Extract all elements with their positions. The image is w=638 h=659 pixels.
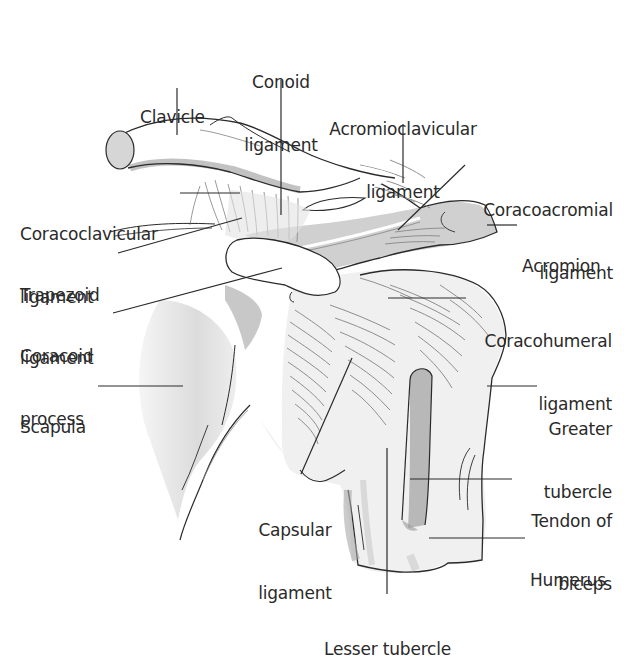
label-text: Scapula (20, 417, 86, 438)
label-text: ligament (231, 135, 331, 156)
label-scapula: Scapula (20, 375, 86, 459)
label-text: Humerus (530, 570, 606, 591)
label-text: Greater (520, 419, 612, 440)
label-acromion: Acromion (522, 214, 601, 298)
label-text: Trapezoid (20, 285, 100, 306)
label-text: Capsular (245, 520, 345, 541)
label-text: Coracoid (20, 346, 93, 367)
label-text: Conoid (231, 72, 331, 93)
label-text: Coracohumeral (450, 331, 612, 352)
label-text: Lesser tubercle (300, 639, 475, 659)
label-lesser-tubercle: Lesser tubercle (300, 597, 475, 659)
label-text: Acromion (522, 256, 601, 277)
label-text: Acromioclavicular (318, 119, 488, 140)
coracoid-shadow (225, 285, 262, 350)
label-conoid-ligament: Conoid ligament (231, 30, 331, 177)
label-text: Coracoclavicular (20, 224, 158, 245)
label-text: Clavicle (140, 107, 205, 128)
label-humerus: Humerus (530, 528, 606, 612)
label-clavicle: Clavicle (140, 65, 205, 149)
